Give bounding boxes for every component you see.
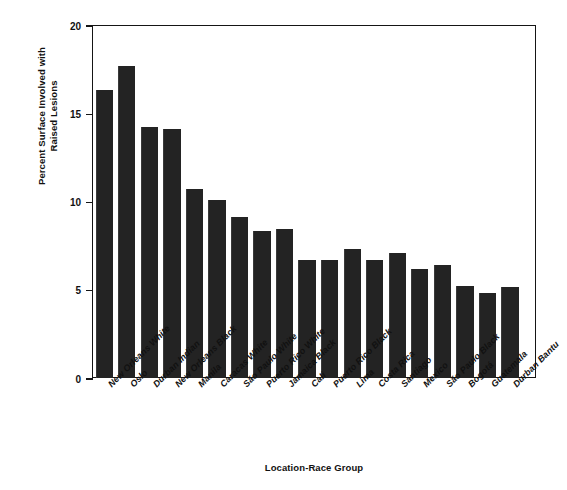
y-tick-label: 20 xyxy=(41,20,81,33)
y-tick-label: 15 xyxy=(41,108,81,121)
bar xyxy=(96,90,113,378)
y-tick-mark xyxy=(86,378,93,379)
bar xyxy=(321,260,338,378)
bar-chart-figure: Percent Surface Involved with Raised Les… xyxy=(0,0,567,490)
y-tick-label: 10 xyxy=(41,196,81,209)
x-axis-title: Location-Race Group xyxy=(92,462,536,473)
bars-layer xyxy=(92,25,536,378)
y-tick-label: 5 xyxy=(41,284,81,297)
bar xyxy=(366,260,383,378)
y-tick-label: 0 xyxy=(41,373,81,386)
bar xyxy=(163,129,180,378)
bar xyxy=(118,66,135,378)
